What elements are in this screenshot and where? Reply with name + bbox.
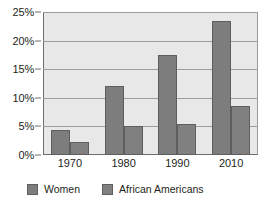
y-axis-tick-mark: [35, 69, 41, 70]
bar-group: [43, 12, 97, 155]
y-axis-tick-label: 25%: [13, 6, 34, 18]
y-axis-tick-mark: [35, 155, 41, 156]
bar-african-americans-2010: [231, 106, 250, 155]
x-axis-labels: 1970198019902010: [43, 157, 258, 175]
bar-african-americans-1980: [124, 126, 143, 155]
y-axis-tick-label: 5%: [19, 120, 35, 132]
x-axis-tick-label: 1980: [97, 157, 151, 175]
y-axis-tick-label: 0%: [19, 149, 35, 161]
x-axis-tick-label: 1970: [43, 157, 97, 175]
y-axis-tick-mark: [35, 97, 41, 98]
legend-item-african-americans[interactable]: African Americans: [102, 183, 204, 195]
x-axis-tick-label: 2010: [204, 157, 258, 175]
bar-group: [204, 12, 258, 155]
legend-label: Women: [44, 183, 80, 195]
grouped-bar-chart: 0%5%10%15%20%25% 1970198019902010 WomenA…: [0, 0, 268, 209]
legend-label: African Americans: [119, 183, 204, 195]
y-axis-tick-mark: [35, 12, 41, 13]
bar-groups: [43, 12, 258, 155]
y-axis: 0%5%10%15%20%25%: [0, 12, 41, 155]
legend-item-women[interactable]: Women: [27, 183, 80, 195]
legend: WomenAfrican Americans: [27, 183, 204, 195]
bar-group: [151, 12, 205, 155]
bar-women-1990: [158, 55, 177, 155]
legend-swatch-icon: [27, 184, 38, 195]
y-axis-tick-mark: [35, 40, 41, 41]
y-axis-tick-label: 20%: [13, 35, 34, 47]
bar-group: [97, 12, 151, 155]
x-axis-tick-label: 1990: [151, 157, 205, 175]
bar-women-1980: [105, 86, 124, 155]
y-axis-tick-label: 10%: [13, 92, 34, 104]
bar-african-americans-1990: [177, 124, 196, 155]
plot-area: [43, 12, 258, 155]
bar-african-americans-1970: [70, 142, 89, 155]
bar-women-2010: [212, 21, 231, 155]
y-axis-tick-label: 15%: [13, 63, 34, 75]
legend-swatch-icon: [102, 184, 113, 195]
y-axis-tick-mark: [35, 126, 41, 127]
bar-women-1970: [51, 130, 70, 155]
